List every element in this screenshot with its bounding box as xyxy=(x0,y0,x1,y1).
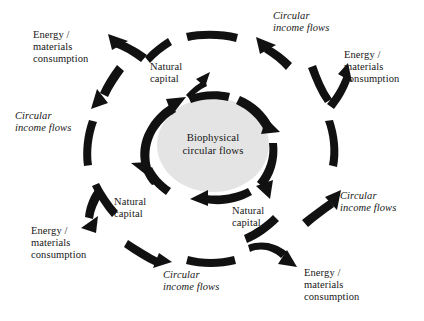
outer-dash-right xyxy=(325,120,338,167)
natural-capital-right-label: Natural capital xyxy=(232,205,292,229)
outer-arrow-tail-top-left xyxy=(145,38,172,63)
circular-income-bottom-label: Circular income flows xyxy=(163,269,247,293)
circular-income-top-right-label: Circular income flows xyxy=(273,10,353,34)
circular-income-left-label: Circular income flows xyxy=(15,110,95,134)
energy-materials-bottom-left-label: Energy / materials consumption xyxy=(31,225,115,262)
outer-arrow-upper-right-v-down xyxy=(308,65,332,103)
outer-dash-top xyxy=(186,31,238,42)
inner-arrowhead-bottom xyxy=(190,190,208,206)
natural-capital-left-label: Natural capital xyxy=(114,196,174,220)
energy-materials-bottom-right-label: Energy / materials consumption xyxy=(304,267,388,304)
circular-flow-diagram: Biophysical circular flows Natural capit… xyxy=(0,0,424,321)
outer-arrow-right-up xyxy=(302,200,334,227)
outer-arrow-upper-left-down xyxy=(100,65,124,97)
energy-materials-right-top-label: Energy / materials consumption xyxy=(344,49,424,86)
outer-dash-bottom xyxy=(186,256,236,267)
outer-arrow-bottom-right xyxy=(248,243,287,258)
center-label: Biophysical circular flows xyxy=(173,131,253,157)
energy-materials-top-left-label: Energy / materials consumption xyxy=(33,29,117,66)
natural-capital-top-label: Natural capital xyxy=(150,61,210,85)
outer-arrow-curve-lower-left xyxy=(85,190,102,219)
outer-arrow-bottom-left-right xyxy=(124,240,160,266)
circular-income-right-label: Circular income flows xyxy=(340,190,420,214)
inner-arrowhead-lower-left xyxy=(131,162,148,174)
